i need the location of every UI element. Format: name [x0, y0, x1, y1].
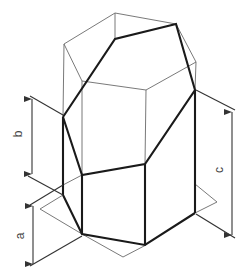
dimension-b [28, 96, 63, 195]
dimension-a [30, 185, 82, 266]
vertical-edges [63, 13, 196, 175]
label-c: c [213, 167, 225, 173]
prism-drawing [0, 0, 248, 276]
dimension-c [196, 90, 235, 238]
section-outline [63, 24, 195, 245]
label-a: a [14, 233, 26, 240]
label-b: b [12, 131, 24, 138]
diagram-canvas: b a c [0, 0, 248, 276]
